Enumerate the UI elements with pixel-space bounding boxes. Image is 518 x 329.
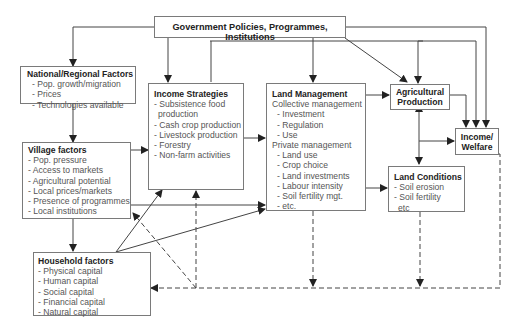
household-item: - Social capital bbox=[38, 287, 150, 297]
village-item: - Pop. pressure bbox=[28, 155, 130, 165]
agricultural-production-box: Agricultural Production bbox=[390, 84, 450, 110]
village-factors-box: Village factors - Pop. pressure - Access… bbox=[22, 142, 131, 219]
village-item: - Access to markets bbox=[28, 165, 130, 175]
village-title: Village factors bbox=[28, 145, 130, 155]
village-item: - Local prices/markets bbox=[28, 186, 130, 196]
land-condition-item: - Soil fertility bbox=[394, 192, 464, 202]
collective-item: - Regulation bbox=[272, 120, 365, 130]
income-strategy-item: - Non-farm activities bbox=[154, 150, 243, 160]
national-item: - Prices bbox=[27, 89, 135, 99]
household-item: - Natural capital bbox=[38, 307, 150, 317]
private-item: - Crop choice bbox=[272, 160, 365, 170]
village-item: - Presence of programmes bbox=[28, 196, 130, 206]
income-welfare-box: Income/ Welfare bbox=[455, 128, 499, 155]
private-item: - Soil fertility mgt. bbox=[272, 191, 365, 201]
collective-management-label: Collective management bbox=[272, 99, 365, 109]
income-welfare-line2: Welfare bbox=[456, 142, 498, 152]
private-management-label: Private management bbox=[272, 140, 365, 150]
collective-item: - Use bbox=[272, 130, 365, 140]
land-condition-item: etc bbox=[394, 203, 464, 213]
private-item: - Land use bbox=[272, 150, 365, 160]
national-title: National/Regional Factors bbox=[27, 69, 135, 79]
national-regional-factors-box: National/Regional Factors - Pop. growth/… bbox=[20, 66, 136, 104]
government-policies-box: Government Policies, Programmes, Institu… bbox=[154, 16, 346, 38]
collective-item: - Investment bbox=[272, 109, 365, 119]
income-strategies-title: Income Strategies bbox=[154, 89, 243, 99]
income-strategy-item: - Cash crop production bbox=[154, 120, 243, 130]
private-item: - Land investments bbox=[272, 171, 365, 181]
income-strategy-item: - Subsistence food bbox=[154, 99, 243, 109]
income-strategy-item: - Livestock production bbox=[154, 130, 243, 140]
income-strategy-item: - Forestry bbox=[154, 140, 243, 150]
agri-title-line2: Production bbox=[391, 97, 449, 107]
agri-title-line1: Agricultural bbox=[391, 87, 449, 97]
national-item: - Pop. growth/migration bbox=[27, 79, 135, 89]
income-strategies-box: Income Strategies - Subsistence food pro… bbox=[148, 83, 244, 190]
land-management-box: Land Management Collective management - … bbox=[266, 83, 366, 211]
private-item: - etc. bbox=[272, 201, 365, 211]
private-item: - Labour intensity bbox=[272, 181, 365, 191]
land-condition-item: - Soil erosion bbox=[394, 182, 464, 192]
household-item: - Physical capital bbox=[38, 266, 150, 276]
village-item: - Local institutions bbox=[28, 206, 130, 216]
land-management-title: Land Management bbox=[272, 89, 365, 99]
household-title: Household factors bbox=[38, 256, 150, 266]
household-item: - Human capital bbox=[38, 276, 150, 286]
household-factors-box: Household factors - Physical capital - H… bbox=[33, 252, 151, 316]
income-strategy-item: production bbox=[154, 109, 243, 119]
income-welfare-line1: Income/ bbox=[456, 132, 498, 142]
land-conditions-box: Land Conditions - Soil erosion - Soil fe… bbox=[388, 166, 465, 212]
land-conditions-title: Land Conditions bbox=[394, 172, 464, 182]
national-item: - Technologies available bbox=[27, 100, 135, 110]
household-item: - Financial capital bbox=[38, 297, 150, 307]
village-item: - Agricultural potential bbox=[28, 176, 130, 186]
